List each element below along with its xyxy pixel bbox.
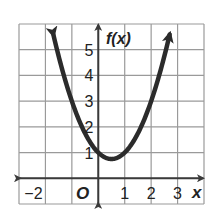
y-axis-label: f(x) bbox=[106, 30, 131, 47]
parabola-curve bbox=[53, 35, 169, 159]
function-graph: −212312345 f(x) x O bbox=[0, 0, 217, 213]
origin-label: O bbox=[76, 184, 89, 203]
x-tick-label: −2 bbox=[24, 185, 42, 202]
x-tick-label: 1 bbox=[120, 185, 129, 202]
y-tick-label: 4 bbox=[84, 67, 93, 84]
y-tick-label: 1 bbox=[84, 145, 93, 162]
x-tick-label: 3 bbox=[173, 185, 182, 202]
y-tick-label: 2 bbox=[84, 119, 93, 136]
x-axis-label: x bbox=[191, 183, 203, 202]
y-tick-label: 5 bbox=[84, 42, 93, 59]
y-tick-label: 3 bbox=[84, 93, 93, 110]
grid-lines bbox=[19, 24, 204, 204]
x-tick-label: 2 bbox=[147, 185, 156, 202]
axes bbox=[20, 25, 203, 203]
